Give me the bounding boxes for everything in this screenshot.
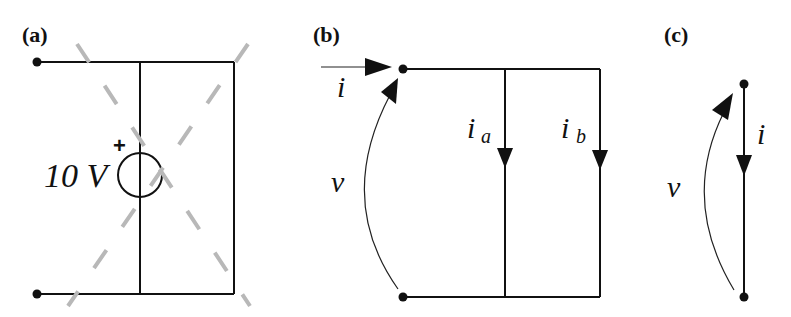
top-node-dot [399, 65, 408, 74]
voltage-arrow-icon [712, 93, 733, 120]
source-value-label: 10 V [44, 157, 112, 194]
branch-a-current-subscript: a [481, 125, 491, 147]
branch-a-arrow-icon [497, 148, 513, 168]
branch-a-current-symbol: i [467, 111, 475, 144]
current-in-label: i [337, 70, 345, 103]
branch-b-current-symbol: i [561, 111, 569, 144]
circuit-figure: (a) + 10 V (b) i i [0, 0, 791, 317]
terminal-bottom-dot [33, 290, 42, 299]
panel-b-label: (b) [313, 22, 340, 47]
voltage-arrow-icon [381, 78, 398, 104]
branch-b-arrow-icon [592, 150, 608, 170]
branch-b-current-subscript: b [576, 125, 586, 147]
terminal-top-dot [33, 58, 42, 67]
panel-c-label: (c) [664, 22, 688, 47]
bottom-terminal-dot [740, 293, 749, 302]
current-label: i [757, 117, 765, 150]
voltage-curve [704, 112, 734, 290]
top-terminal-dot [740, 80, 749, 89]
voltage-label: v [667, 170, 681, 203]
panel-b: (b) i i a i b v [313, 22, 608, 302]
current-in-arrow-icon [365, 58, 392, 76]
voltage-label: v [331, 165, 345, 198]
polarity-plus-sign: + [113, 133, 126, 158]
panel-c: (c) i v [664, 22, 765, 302]
current-arrow-icon [736, 155, 752, 176]
panel-a-label: (a) [22, 22, 48, 47]
bottom-node-dot [399, 293, 408, 302]
panel-a: (a) + 10 V [22, 22, 250, 306]
voltage-curve [364, 95, 398, 289]
